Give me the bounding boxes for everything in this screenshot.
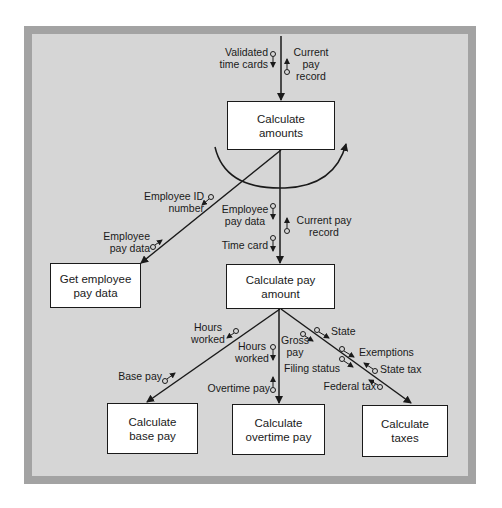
couple-filing-status: Filing status [270,362,340,374]
couple-overtime-pay: Overtime pay [200,382,270,394]
couple-gross-pay: Grosspay [280,334,310,358]
module-label: amount [246,287,316,301]
module-label: Calculate [129,415,177,429]
module-label: Calculate pay [246,273,316,287]
couple-current-pay-record-top: Currentpayrecord [291,46,331,82]
couple-hours-worked-mid: Hoursworked [234,340,270,364]
data-couple-icon [271,236,276,252]
module-label: taxes [381,431,429,445]
data-couple-icon [285,218,290,234]
module-label: Calculate [257,112,305,126]
couple-base-pay: Base pay [110,370,162,382]
module-calculate-amounts: Calculateamounts [227,101,335,150]
data-couple-icon [271,52,276,68]
data-couple-icon [285,59,290,75]
module-label: Calculate [381,417,429,431]
module-label: Get employee [60,272,132,286]
data-couple-icon [340,357,354,368]
couple-state-tax: State tax [380,363,421,375]
module-label: Calculate [246,416,312,430]
module-label: overtime pay [246,430,312,444]
couple-current-pay-record-mid: Current payrecord [291,214,357,238]
module-calculate-base-pay: Calculatebase pay [107,403,198,454]
module-label: base pay [129,429,177,443]
couple-state: State [331,325,356,337]
data-couple-icon [340,347,355,358]
module-label: pay data [60,286,132,300]
data-couple-icon [364,363,378,374]
module-calculate-overtime-pay: Calculateovertime pay [232,404,325,455]
couple-employee-id-number: Employee IDnumber [140,190,204,214]
data-couple-icon [163,373,176,384]
data-couple-icon [315,328,330,339]
module-calculate-pay-amount: Calculate payamount [226,264,335,309]
module-calculate-taxes: Calculatetaxes [362,405,448,457]
couple-exemptions: Exemptions [359,346,414,358]
data-couple-icon [271,204,276,220]
data-couple-icon [271,345,276,361]
couple-employee-pay-data-left: Employeepay data [86,230,150,254]
data-couple-icon [271,377,276,393]
module-get-employee-pay-data: Get employeepay data [50,263,141,308]
couple-hours-worked-left: Hoursworked [186,321,230,345]
module-label: amounts [257,126,305,140]
couple-time-card: Time card [210,239,268,251]
couple-federal-tax: Federal tax [310,380,376,392]
couple-employee-pay-data-mid: Employeepay data [220,203,270,227]
couple-validated-time-cards: Validatedtime cards [210,46,268,70]
